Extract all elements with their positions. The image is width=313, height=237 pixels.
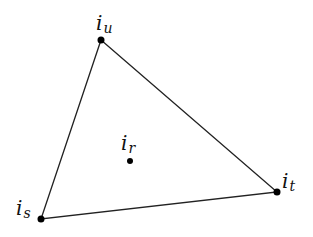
label-r: ir <box>121 131 136 156</box>
vertex-s-point <box>38 216 45 223</box>
vertex-t-point <box>274 189 281 196</box>
interior-point-r <box>127 158 133 164</box>
vertex-u-point <box>98 37 105 44</box>
label-t: it <box>282 169 295 194</box>
label-s: is <box>16 196 31 221</box>
label-u: iu <box>96 11 112 36</box>
triangle-diagram: iu is it ir <box>0 0 313 237</box>
triangle-edges <box>41 40 277 219</box>
